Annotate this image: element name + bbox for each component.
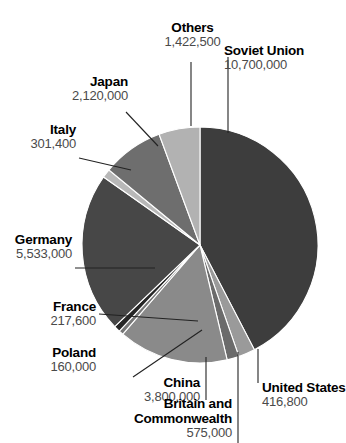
slice-label-japan-name: Japan <box>0 74 128 89</box>
slice-label-britain-name-line2: Commonwealth <box>110 411 232 426</box>
slice-label-poland-value: 160,000 <box>0 360 96 375</box>
slice-label-france-name: France <box>0 299 96 314</box>
slice-label-united-states: United States 416,800 <box>262 380 346 410</box>
slice-label-britain-value: 575,000 <box>110 426 232 441</box>
pie-slice-group <box>82 127 318 363</box>
slice-label-soviet-union-value: 10,700,000 <box>224 58 304 73</box>
slice-label-others-name: Others <box>120 20 265 35</box>
slice-label-china-name: China <box>86 375 200 390</box>
slice-label-france: France 217,600 <box>0 299 96 329</box>
slice-label-france-value: 217,600 <box>0 314 96 329</box>
slice-label-japan: Japan 2,120,000 <box>0 74 128 104</box>
leader-line-japan <box>126 112 158 146</box>
slice-label-germany: Germany 5,533,000 <box>0 232 72 262</box>
slice-label-poland-name: Poland <box>0 345 96 360</box>
slice-label-britain: Britain and Commonwealth 575,000 <box>110 396 232 441</box>
slice-label-poland: Poland 160,000 <box>0 345 96 375</box>
slice-label-italy-value: 301,400 <box>0 137 76 152</box>
slice-label-united-states-value: 416,800 <box>262 395 346 410</box>
slice-label-soviet-union-name: Soviet Union <box>224 43 304 58</box>
slice-label-britain-name-line1: Britain and <box>110 396 232 411</box>
slice-label-italy: Italy 301,400 <box>0 122 76 152</box>
slice-label-japan-value: 2,120,000 <box>0 89 128 104</box>
slice-label-united-states-name: United States <box>262 380 346 395</box>
pie-chart: Others 1,422,500 Soviet Union 10,700,000… <box>0 0 346 443</box>
slice-label-germany-name: Germany <box>0 232 72 247</box>
slice-label-germany-value: 5,533,000 <box>0 247 72 262</box>
slice-label-italy-name: Italy <box>0 122 76 137</box>
slice-label-soviet-union: Soviet Union 10,700,000 <box>224 43 304 73</box>
